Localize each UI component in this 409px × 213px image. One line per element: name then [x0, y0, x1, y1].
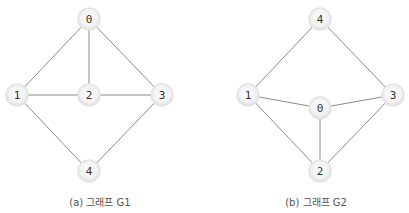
node-g2-4: 4 — [309, 8, 331, 30]
node-label: 0 — [317, 102, 324, 115]
node-label: 3 — [159, 89, 166, 102]
edge-g2-4-1 — [248, 19, 320, 95]
node-label: 1 — [14, 89, 21, 102]
node-g1-4: 4 — [78, 160, 100, 182]
node-label: 1 — [245, 89, 252, 102]
node-g2-0: 0 — [309, 97, 331, 119]
node-label: 0 — [86, 13, 93, 26]
node-label: 3 — [390, 89, 397, 102]
edges-layer — [17, 19, 393, 171]
caption-g2: (b) 그래프 G2 — [285, 194, 347, 209]
node-g1-3: 3 — [151, 84, 173, 106]
node-label: 4 — [86, 165, 93, 178]
node-g2-3: 3 — [382, 84, 404, 106]
node-label: 2 — [86, 89, 93, 102]
edge-g2-4-3 — [320, 19, 393, 95]
edge-g1-1-4 — [17, 95, 89, 171]
edge-g1-3-4 — [89, 95, 162, 171]
node-g1-0: 0 — [78, 8, 100, 30]
node-label: 2 — [317, 165, 324, 178]
edge-g1-0-3 — [89, 19, 162, 95]
node-g1-1: 1 — [6, 84, 28, 106]
node-g1-2: 2 — [78, 84, 100, 106]
node-label: 4 — [317, 13, 324, 26]
node-g2-1: 1 — [237, 84, 259, 106]
node-g2-2: 2 — [309, 160, 331, 182]
graph-canvas: 0123441032 — [0, 0, 409, 213]
edge-g1-0-1 — [17, 19, 89, 95]
caption-g1: (a) 그래프 G1 — [69, 194, 130, 209]
